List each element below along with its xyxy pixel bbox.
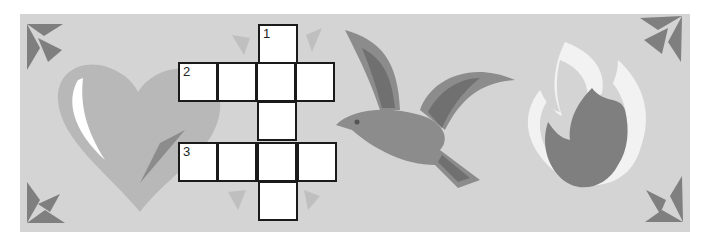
clue-number: 1 — [263, 27, 270, 40]
crossword-cell[interactable] — [217, 142, 257, 182]
crossword-cell[interactable] — [217, 62, 257, 102]
crossword-cell[interactable] — [257, 101, 297, 141]
crossword-cell[interactable]: 1 — [258, 24, 298, 64]
crossword-cell[interactable] — [256, 62, 296, 102]
crossword-cell[interactable] — [258, 181, 298, 221]
crossword-cell[interactable] — [297, 142, 337, 182]
arrow-icon — [645, 176, 683, 222]
crossword-cell[interactable]: 3 — [178, 142, 218, 182]
arrow-icon — [27, 24, 63, 70]
clue-number: 3 — [183, 145, 190, 158]
clue-number: 2 — [183, 65, 190, 78]
crossword-cell[interactable] — [257, 142, 297, 182]
decorations — [0, 0, 710, 247]
arrow-icon — [640, 16, 682, 62]
crossword-cell[interactable] — [295, 62, 335, 102]
crossword-cell[interactable]: 2 — [178, 62, 218, 102]
arrow-icon — [27, 182, 65, 223]
dove-icon — [336, 30, 515, 188]
flame-icon — [528, 42, 646, 187]
